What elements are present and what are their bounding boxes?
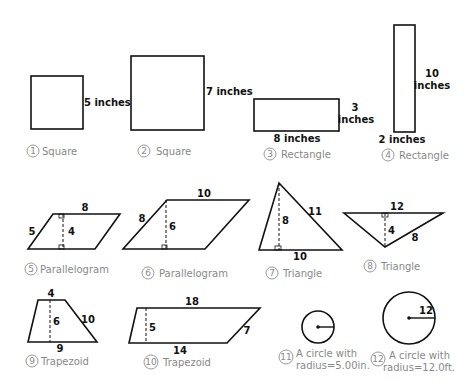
svg-text:4: 4 bbox=[68, 226, 75, 237]
figure-5-parallelogram: 8 5 4 5 Parallelogram bbox=[25, 202, 120, 275]
svg-text:9: 9 bbox=[57, 343, 64, 354]
caption: Square bbox=[156, 146, 191, 157]
svg-text:8: 8 bbox=[282, 215, 289, 226]
caption: Rectangle bbox=[399, 150, 449, 161]
svg-text:radius=5.00in.: radius=5.00in. bbox=[296, 360, 370, 371]
svg-text:1: 1 bbox=[30, 146, 36, 156]
svg-text:5: 5 bbox=[149, 322, 156, 333]
caption: Trapezoid bbox=[162, 357, 211, 368]
svg-text:4: 4 bbox=[385, 150, 391, 160]
svg-text:8: 8 bbox=[367, 261, 373, 271]
svg-text:8: 8 bbox=[412, 232, 419, 243]
figure-3-rectangle: 3 inches 8 inches 3 Rectangle bbox=[254, 99, 374, 160]
svg-text:12: 12 bbox=[390, 201, 404, 212]
figure-10-trapezoid: 18 5 7 14 10 Trapezoid bbox=[129, 296, 260, 369]
svg-text:2: 2 bbox=[141, 146, 147, 156]
svg-text:4: 4 bbox=[388, 225, 395, 236]
figure-11-circle: 11 A circle with radius=5.00in. bbox=[279, 311, 370, 371]
side-label: 7 inches bbox=[206, 86, 253, 97]
svg-text:A circle with: A circle with bbox=[389, 350, 450, 361]
caption: Triangle bbox=[380, 261, 420, 272]
figure-2-square: 7 inches 2 Square bbox=[131, 56, 253, 157]
caption: Square bbox=[42, 146, 77, 157]
svg-text:inches: inches bbox=[414, 80, 450, 91]
side-label: 5 inches bbox=[84, 97, 131, 108]
svg-text:14: 14 bbox=[173, 345, 187, 356]
svg-text:7: 7 bbox=[269, 268, 275, 278]
svg-text:8: 8 bbox=[139, 213, 146, 224]
svg-text:2 inches: 2 inches bbox=[379, 134, 426, 145]
svg-text:12: 12 bbox=[419, 305, 433, 316]
svg-text:3: 3 bbox=[352, 102, 359, 113]
svg-text:10: 10 bbox=[293, 251, 307, 262]
svg-text:inches: inches bbox=[338, 114, 374, 125]
svg-text:10: 10 bbox=[425, 68, 439, 79]
svg-text:5: 5 bbox=[29, 226, 36, 237]
svg-text:10: 10 bbox=[197, 188, 211, 199]
svg-text:3: 3 bbox=[267, 149, 273, 159]
figure-7-triangle: 8 11 10 7 Triangle bbox=[259, 183, 342, 279]
svg-text:8 inches: 8 inches bbox=[274, 133, 321, 144]
geometry-figures: 5 inches 1 Square 7 inches 2 Square 3 in… bbox=[0, 0, 471, 392]
svg-text:10: 10 bbox=[145, 357, 157, 367]
caption: Rectangle bbox=[281, 149, 331, 160]
figure-1-square: 5 inches 1 Square bbox=[27, 76, 131, 157]
svg-text:7: 7 bbox=[244, 325, 251, 336]
figure-9-trapezoid: 4 6 10 9 9 Trapezoid bbox=[26, 288, 97, 367]
svg-text:10: 10 bbox=[81, 314, 95, 325]
figure-4-rectangle: 10 inches 2 inches 4 Rectangle bbox=[379, 25, 451, 161]
figure-6-parallelogram: 10 8 6 6 Parallelogram bbox=[123, 188, 249, 279]
caption: Triangle bbox=[282, 268, 322, 279]
svg-text:5: 5 bbox=[28, 264, 34, 274]
figure-8-triangle: 12 4 8 8 Triangle bbox=[344, 201, 443, 272]
caption: Trapezoid bbox=[40, 356, 89, 367]
caption: Parallelogram bbox=[40, 264, 109, 275]
svg-text:6: 6 bbox=[53, 316, 60, 327]
svg-text:11: 11 bbox=[280, 352, 291, 362]
svg-text:9: 9 bbox=[29, 356, 35, 366]
figure-12-circle: 12 12 A circle with radius=12.0ft. bbox=[371, 292, 455, 373]
svg-text:12: 12 bbox=[372, 354, 383, 364]
svg-text:8: 8 bbox=[82, 202, 89, 213]
svg-text:6: 6 bbox=[145, 268, 151, 278]
svg-text:18: 18 bbox=[185, 296, 199, 307]
svg-text:6: 6 bbox=[169, 221, 176, 232]
svg-text:A circle with: A circle with bbox=[296, 348, 357, 359]
svg-text:11: 11 bbox=[308, 206, 322, 217]
svg-text:4: 4 bbox=[48, 288, 55, 299]
caption: Parallelogram bbox=[159, 268, 228, 279]
svg-text:radius=12.0ft.: radius=12.0ft. bbox=[383, 362, 455, 373]
